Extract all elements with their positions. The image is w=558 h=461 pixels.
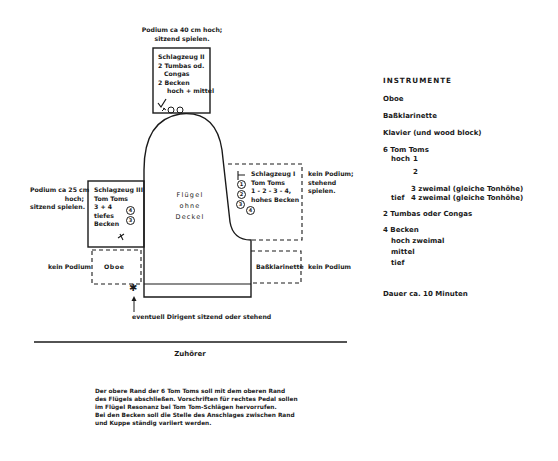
label-line: Schlagzeug III [94,186,143,195]
label-line: Tom Toms [94,195,143,204]
cymbal-icon [177,107,183,113]
label-line: Becken [94,220,143,229]
tomtom-note: zweimal (gleiche Tonhöhe) [418,194,523,202]
cymbal-icon [168,107,174,113]
percussion-3-podium-note: Podium ca 25 cm hoch; sitzend spielen. [30,186,84,212]
footnote: Der obere Rand der 6 Tom Toms soll mit d… [95,387,298,427]
label-line: Tom Toms [251,179,299,188]
percussion-2-label: Schlagzeug II 2 Tumbas od. Congas 2 Beck… [158,53,210,96]
tomtom-row: 2 [383,168,523,177]
tomtom-number: 3 [411,185,416,193]
mallet-icon [118,234,124,240]
duration: Dauer ca. 10 Minuten [383,290,523,299]
tomtom-row: hoch1 [383,155,523,164]
instrument-item: 2 Tumbas oder Congas [383,210,523,219]
footnote-line: Der obere Rand der 6 Tom Toms soll mit d… [95,387,298,395]
label-line: Congas [158,70,210,79]
bass-clarinet-label: Baßklarinette [256,263,304,272]
podium-note-line: hoch; [30,195,84,204]
cymbal-heading: 4 Becken [383,226,523,235]
podium-note-line: sitzend spielen. [140,35,224,44]
tomtom-row: 3 zweimal (gleiche Tonhöhe) [383,185,523,194]
tomtom-number-badge: 3 [126,216,135,225]
conductor-note: eventuell Dirigent sitzend oder stehend [132,313,271,322]
label-line: 2 Becken [158,79,210,88]
tomtom-heading: 6 Tom Toms [383,146,523,155]
label-line: 1 - 2 - 3 - 4, [251,187,299,196]
conductor-arrowhead [132,296,137,301]
cymbal-row: hoch zweimal [383,237,523,246]
instrument-item: Klavier (und wood block) [383,129,523,138]
footnote-line: im Flügel Resonanz bei Tom Tom-Schlägen … [95,403,298,411]
instrument-item: Oboe [383,95,523,104]
percussion-3-label: Schlagzeug III Tom Toms 3 + 4 tiefes Bec… [94,186,143,229]
tomtom-number-badge: 3 [236,200,245,209]
podium-note-line: Podium ca 25 cm [30,186,84,195]
piano-label: Flügel ohne Deckel [165,190,215,223]
podium-note-line: spielen. [308,187,354,196]
tomtom-note: zweimal (gleiche Tonhöhe) [418,185,523,193]
footnote-line: und Kuppe ständig variiert werden. [95,419,298,427]
instrument-item: Baßklarinette [383,112,523,121]
tomtom-number-badge: 2 [237,190,246,199]
oboe-label: Oboe [104,263,125,272]
tomtom-number: 1 [413,155,418,163]
percussion-1-label: Schlagzeug I Tom Toms 1 - 2 - 3 - 4, hoh… [251,170,299,204]
tomtom-number-badge: 1 [237,180,246,189]
cymbal-row: mittel [383,248,523,257]
pitch-label: tief [391,194,411,203]
tomtom-number: 2 [413,168,418,176]
tomtom-number-badge: 4 [246,206,255,215]
mallet-icon [158,99,166,107]
pitch-label: hoch [391,155,413,164]
tomtom-number: 4 [411,194,416,202]
oboe-podium-note: kein Podium [48,263,91,272]
audience-label: Zuhörer [160,350,220,359]
label-line: Deckel [165,212,215,223]
instrument-list-title: INSTRUMENTE [383,76,523,85]
label-line: Schlagzeug I [251,170,299,179]
label-line: Flügel [165,190,215,201]
tomtom-row: tief4 zweimal (gleiche Tonhöhe) [383,194,523,203]
label-line: hoch + mittel [158,87,210,96]
percussion-2-podium-note: Podium ca 40 cm hoch; sitzend spielen. [140,26,224,43]
bass-clarinet-podium-note: kein Podium [308,263,351,272]
conductor-icon: ✱ [129,283,137,293]
podium-note-line: stehend [308,179,354,188]
instrument-list: INSTRUMENTE Oboe Baßklarinette Klavier (… [383,76,523,299]
tomtom-number-badge: 4 [126,206,135,215]
podium-note-line: kein Podium; [308,170,354,179]
label-line: tiefes [94,212,143,221]
label-line: ohne [165,201,215,212]
label-line: 3 + 4 [94,203,143,212]
footnote-line: des Flügels abschließen. Vorschriften fü… [95,395,298,403]
podium-note-line: Podium ca 40 cm hoch; [140,26,224,35]
cymbal-stand-icon [238,171,245,180]
footnote-line: Bei den Becken soll die Stelle des Ansch… [95,411,298,419]
label-line: hohes Becken [251,196,299,205]
mallet-icon [162,108,166,111]
percussion-1-podium-note: kein Podium; stehend spielen. [308,170,354,196]
cymbal-row: tief [383,259,523,268]
label-line: 2 Tumbas od. [158,62,210,71]
podium-note-line: sitzend spielen. [30,203,84,212]
label-line: Schlagzeug II [158,53,210,62]
